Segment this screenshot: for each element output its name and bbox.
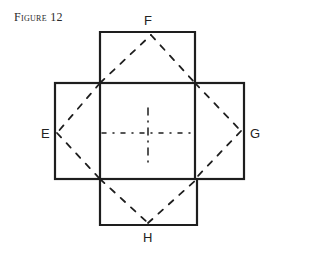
fold-line-right-top (195, 83, 241, 131)
flap-bottom-outline (100, 179, 197, 225)
label-f: F (144, 14, 152, 27)
flap-top-outline (100, 32, 195, 83)
label-h: H (143, 231, 152, 244)
diagonal-fold-lines (57, 35, 241, 223)
label-e: E (41, 127, 50, 140)
fold-line-bottom-right (148, 179, 197, 223)
solid-outlines (55, 32, 244, 225)
label-g: G (250, 127, 260, 140)
center-crosshair (102, 108, 192, 166)
fold-line-left-top (57, 83, 100, 133)
fold-line-top-right (151, 35, 195, 83)
fold-line-top-left (100, 35, 151, 83)
fold-line-left-bottom (57, 133, 100, 179)
fold-line-bottom-left (100, 179, 148, 223)
middle-row-outline (55, 83, 244, 179)
fold-line-right-bottom (195, 131, 241, 179)
